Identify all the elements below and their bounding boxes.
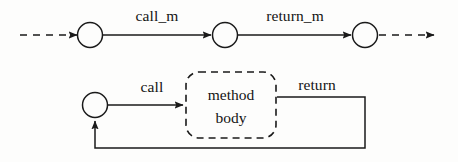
diagram-root: call_m return_m call method body r bbox=[0, 0, 458, 162]
lower-row-group: call method body return bbox=[83, 72, 366, 148]
upper-row-group: call_m return_m bbox=[20, 7, 434, 48]
method-body-box bbox=[186, 72, 276, 138]
state-node-2 bbox=[213, 23, 238, 48]
transition-label-call: call bbox=[141, 78, 164, 95]
state-node-3 bbox=[353, 23, 378, 48]
method-body-label-line2: body bbox=[216, 109, 247, 126]
state-node-1 bbox=[78, 23, 103, 48]
transition-label-return: return bbox=[298, 76, 336, 93]
state-node-caller bbox=[83, 93, 108, 118]
method-body-label-line1: method bbox=[208, 86, 255, 103]
diagram-canvas: call_m return_m call method body r bbox=[0, 0, 458, 162]
transition-label-call-m: call_m bbox=[136, 7, 179, 24]
transition-label-return-m: return_m bbox=[266, 7, 324, 24]
